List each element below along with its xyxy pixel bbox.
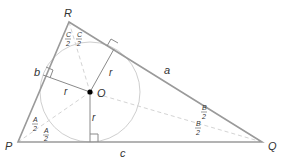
side-label-a: a [164, 64, 170, 76]
side-label-b: b [34, 66, 40, 78]
right-angle-c [90, 134, 98, 142]
svg-text:B: B [196, 120, 201, 127]
radius-label-upper: r [109, 67, 113, 78]
vertex-label-q: Q [268, 140, 277, 152]
radius-label-left: r [64, 86, 68, 97]
angle-label-b-lower: B 2 [195, 120, 201, 136]
incircle-diagram: P Q R a b c O r r r C 2 C 2 A 2 A 2 B 2 … [0, 0, 285, 163]
svg-text:2: 2 [195, 129, 200, 136]
svg-text:B: B [202, 104, 207, 111]
svg-text:C: C [66, 31, 72, 38]
side-label-c: c [120, 147, 126, 159]
incenter-point [87, 89, 92, 94]
svg-text:A: A [43, 127, 49, 134]
radius-label-lower: r [92, 112, 96, 123]
vertex-label-r: R [64, 7, 72, 19]
angle-bisectors [18, 22, 262, 142]
triangle-pqr [18, 22, 262, 142]
angle-label-a-lower: A 2 [43, 127, 49, 142]
svg-text:A: A [32, 116, 38, 123]
angle-label-b-upper: B 2 [201, 104, 207, 120]
vertex-label-p: P [5, 140, 13, 152]
svg-text:2: 2 [76, 40, 81, 47]
svg-text:2: 2 [201, 113, 206, 120]
svg-text:2: 2 [43, 135, 48, 142]
svg-text:2: 2 [65, 40, 70, 47]
right-angle-a [107, 39, 118, 46]
angle-label-a-upper: A 2 [32, 116, 38, 132]
angle-label-c-left: C 2 [65, 31, 72, 47]
center-label-o: O [97, 87, 106, 99]
svg-text:2: 2 [32, 125, 37, 132]
angle-label-c-right: C 2 [76, 31, 83, 47]
svg-text:C: C [77, 31, 83, 38]
